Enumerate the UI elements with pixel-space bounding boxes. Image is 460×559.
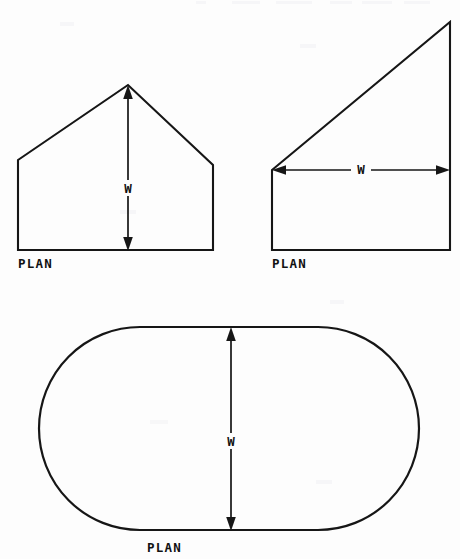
plan-caption: PLAN (18, 256, 53, 271)
stadium-outline (39, 327, 419, 530)
figure-triangle: W PLAN (272, 22, 450, 271)
dimension-label-w: W (357, 162, 365, 177)
pentagon-dimension-arrow: W (123, 85, 133, 251)
figure-pentagon: W PLAN (18, 85, 213, 271)
dimension-label-w: W (124, 181, 132, 196)
triangle-outline (272, 22, 450, 250)
scan-artifacts (60, 1, 430, 484)
dimension-label-w: W (227, 434, 235, 449)
plan-caption: PLAN (272, 256, 307, 271)
technical-diagram-page: W PLAN W PLAN W (0, 0, 460, 559)
arrow-head-right-icon (436, 165, 450, 175)
figure-stadium: W PLAN (39, 327, 419, 555)
arrow-head-left-icon (272, 165, 286, 175)
stadium-dimension-arrow: W (226, 327, 236, 531)
pentagon-outline (18, 85, 213, 250)
diagram-canvas: W PLAN W PLAN W (0, 0, 460, 559)
arrow-head-up-icon (226, 327, 236, 341)
plan-caption: PLAN (147, 540, 182, 555)
arrow-head-down-icon (123, 237, 133, 251)
triangle-dimension-arrow: W (272, 162, 450, 177)
